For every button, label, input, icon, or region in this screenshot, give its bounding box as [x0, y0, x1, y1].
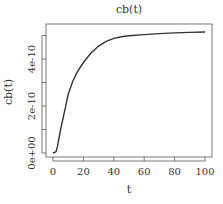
chart-title: cb(t)	[116, 3, 142, 16]
y-axis: 0e+002e-104e-10	[26, 36, 46, 170]
plot-frame	[46, 24, 212, 157]
x-axis: 020406080100	[50, 157, 215, 177]
x-tick-label: 20	[77, 166, 90, 177]
x-tick-label: 100	[195, 166, 214, 177]
x-axis-label: t	[127, 183, 132, 196]
x-tick-label: 60	[138, 166, 151, 177]
x-tick-label: 80	[168, 166, 181, 177]
x-tick-label: 0	[50, 166, 56, 177]
y-tick-label: 0e+00	[26, 136, 37, 169]
line-chart: cb(t) 020406080100 0e+002e-104e-10 t cb(…	[0, 0, 223, 204]
x-tick-label: 40	[107, 166, 120, 177]
y-tick-label: 2e-10	[26, 92, 37, 120]
series-line-cb	[53, 32, 205, 153]
chart-root: cb(t) 020406080100 0e+002e-104e-10 t cb(…	[0, 0, 223, 204]
y-tick-label: 4e-10	[26, 45, 37, 73]
y-axis-label: cb(t)	[2, 79, 15, 105]
